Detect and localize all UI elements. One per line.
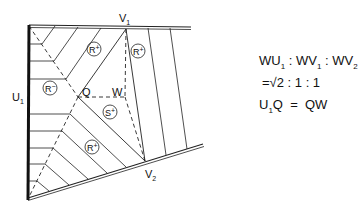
equation-ratio: WU1 : WV1 : WV2 [259, 53, 358, 71]
svg-text:R+: R+ [133, 46, 144, 57]
svg-text:R+: R+ [89, 44, 100, 55]
equation-equal-segments: U1Q = QW [259, 97, 327, 115]
equation-ratio-value: =√2 : 1 : 1 [262, 75, 320, 90]
svg-text:R−: R− [45, 83, 56, 94]
label-u1: U1 [12, 91, 24, 105]
label-w: W [112, 86, 123, 98]
label-v2: V2 [145, 168, 156, 182]
svg-text:S+: S+ [105, 107, 115, 118]
hatch-right [148, 28, 187, 155]
label-v1: V1 [119, 12, 130, 26]
label-q: Q [82, 86, 91, 98]
svg-text:R+: R+ [87, 142, 98, 153]
point-labels: U1 V1 V2 Q W [12, 12, 156, 182]
left-edge [28, 25, 29, 200]
hatch-horizontal [29, 44, 70, 181]
dashed-lines [28, 26, 145, 199]
hatch-lower-diagonal [37, 114, 126, 191]
